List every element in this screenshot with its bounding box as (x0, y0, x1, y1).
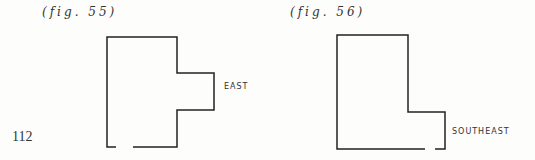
figure-55-direction-label: EAST (224, 82, 249, 91)
figure-56-direction-label: SOUTHEAST (452, 127, 510, 136)
floor-plan-diagrams (0, 0, 535, 160)
figure-56-floor-plan (337, 35, 445, 149)
page-number: 112 (12, 129, 32, 145)
figure-55-floor-plan (107, 37, 214, 147)
